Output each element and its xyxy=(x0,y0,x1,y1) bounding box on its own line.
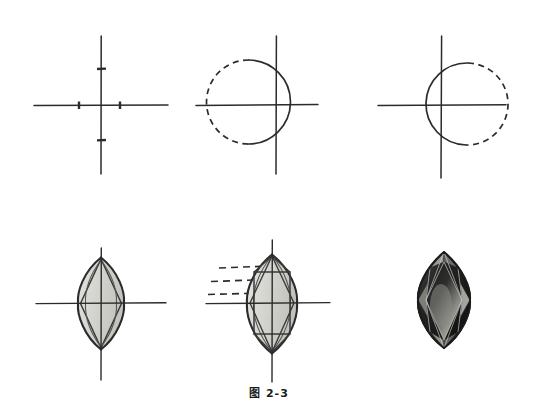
horizontal-axis-line xyxy=(206,303,330,304)
step-4-drawing xyxy=(0,210,200,400)
step-1-drawing xyxy=(0,0,200,200)
vertical-axis-line xyxy=(441,36,442,178)
panel-step-3 xyxy=(360,0,538,200)
panel-step-2 xyxy=(180,0,360,200)
figure-container: 图 2-3 xyxy=(0,0,538,419)
panel-step-4 xyxy=(0,210,200,400)
figure-caption: 图 2-3 xyxy=(0,384,538,400)
panel-step-5 xyxy=(180,210,360,400)
step-5-drawing xyxy=(180,210,360,400)
step-3-drawing xyxy=(360,0,538,200)
gem-highlight xyxy=(430,284,452,326)
dashed-left-arc xyxy=(207,60,249,144)
solid-right-arc xyxy=(248,60,290,144)
panel-step-6 xyxy=(360,210,538,400)
solid-left-arc xyxy=(426,63,468,145)
step-2-drawing xyxy=(180,0,360,200)
dashed-right-arc xyxy=(466,63,508,145)
horizontal-axis-line xyxy=(196,105,318,106)
step-6-drawing xyxy=(360,210,538,400)
panel-step-1 xyxy=(0,0,200,200)
